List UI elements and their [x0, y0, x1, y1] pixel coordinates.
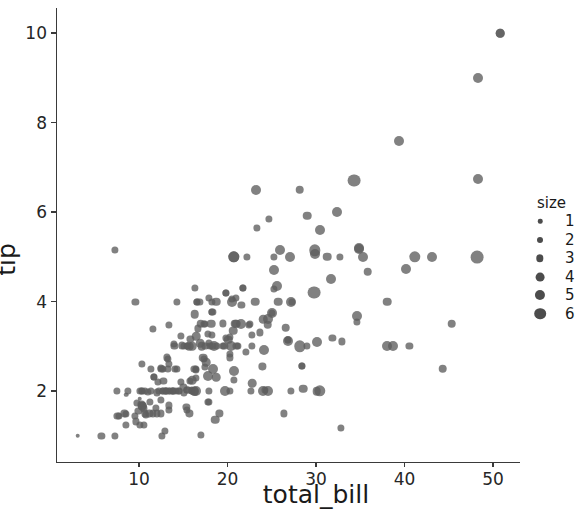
scatter-point — [244, 253, 251, 260]
scatter-point — [401, 264, 411, 274]
x-tick-label: 10 — [128, 469, 150, 489]
legend-marker-icon — [536, 272, 545, 281]
scatter-point — [248, 331, 255, 338]
legend-marker-icon — [538, 219, 543, 224]
scatter-point — [228, 251, 239, 262]
scatter-point — [337, 425, 344, 432]
scatter-point — [281, 410, 288, 417]
scatter-point — [269, 265, 279, 275]
scatter-point — [197, 432, 204, 439]
scatter-point — [212, 297, 221, 306]
scatter-point — [219, 320, 226, 327]
scatter-point — [227, 297, 237, 307]
legend-item[interactable]: 2 — [527, 231, 581, 250]
scatter-point — [229, 366, 239, 376]
scatter-point — [326, 274, 336, 284]
legend-item-label: 1 — [565, 212, 575, 230]
scatter-point — [285, 252, 295, 262]
scatter-point — [124, 392, 129, 397]
scatter-point — [329, 335, 336, 342]
scatter-point — [212, 373, 221, 382]
scatter-point — [274, 297, 283, 306]
scatter-plot-figure: 1020304050 246810 total_bill tip size 12… — [0, 0, 581, 510]
legend-item[interactable]: 1 — [527, 212, 581, 231]
scatter-point — [287, 387, 294, 394]
legend-item[interactable]: 6 — [527, 305, 581, 324]
scatter-point — [312, 337, 322, 347]
y-tick-label: 2 — [36, 381, 47, 401]
scatter-point — [113, 387, 120, 394]
scatter-point — [332, 207, 342, 217]
size-legend: size 123456 — [527, 194, 581, 323]
scatter-point — [190, 310, 199, 319]
scatter-point — [363, 267, 372, 276]
legend-marker-icon — [537, 237, 543, 243]
legend-item[interactable]: 5 — [527, 286, 581, 305]
scatter-point — [111, 432, 118, 439]
scatter-point — [296, 185, 305, 194]
scatter-point — [251, 185, 261, 195]
x-axis-label: total_bill — [263, 480, 369, 509]
scatter-point — [231, 320, 240, 329]
y-tick-mark — [51, 390, 56, 391]
scatter-point — [220, 386, 230, 396]
y-tick-label: 10 — [25, 23, 47, 43]
y-axis-label: tip — [0, 243, 21, 276]
x-tick-label: 50 — [482, 469, 504, 489]
scatter-point — [191, 284, 198, 291]
scatter-point — [248, 379, 257, 388]
scatter-point — [315, 225, 325, 235]
legend-title: size — [537, 194, 581, 212]
scatter-point — [157, 410, 164, 417]
scatter-point — [142, 411, 149, 418]
scatter-point — [166, 406, 173, 413]
scatter-point — [352, 311, 362, 321]
scatter-point — [275, 245, 285, 255]
scatter-point — [271, 253, 278, 260]
scatter-point — [205, 387, 212, 394]
scatter-point — [138, 361, 145, 368]
scatter-point — [178, 332, 185, 339]
legend-item-label: 6 — [565, 305, 575, 323]
scatter-point — [299, 362, 306, 369]
legend-item-label: 2 — [565, 231, 575, 249]
scatter-point — [239, 284, 246, 291]
scatter-point — [354, 244, 364, 254]
scatter-point — [192, 374, 199, 381]
scatter-point — [132, 298, 139, 305]
scatter-point — [259, 345, 269, 355]
x-tick-label: 20 — [217, 469, 239, 489]
scatter-point — [282, 324, 291, 333]
legend-item[interactable]: 4 — [527, 268, 581, 287]
scatter-point — [473, 174, 483, 184]
scatter-point — [470, 250, 483, 263]
x-tick-mark — [404, 462, 405, 467]
legend-entries: 123456 — [527, 212, 581, 323]
scatter-point — [336, 253, 343, 260]
scatter-point — [248, 343, 255, 350]
y-tick-mark — [51, 32, 56, 33]
scatter-point — [226, 341, 236, 351]
scatter-point — [115, 412, 122, 419]
scatter-point — [238, 301, 245, 308]
scatter-point — [473, 73, 483, 83]
y-tick-label: 4 — [36, 292, 47, 312]
scatter-point — [303, 211, 312, 220]
scatter-point — [348, 174, 361, 187]
legend-item[interactable]: 3 — [527, 249, 581, 268]
x-tick-mark — [315, 462, 316, 467]
x-tick-label: 40 — [394, 469, 416, 489]
scatter-point — [253, 224, 260, 231]
scatter-point — [199, 354, 208, 363]
scatter-point — [448, 320, 457, 329]
x-tick-mark — [227, 462, 228, 467]
scatter-point — [150, 325, 157, 332]
scatter-point — [171, 343, 178, 350]
scatter-point — [207, 320, 216, 329]
scatter-point — [394, 136, 404, 146]
scatter-point — [338, 338, 345, 345]
scatter-point — [299, 384, 308, 393]
scatter-point — [294, 341, 305, 352]
scatter-point — [266, 215, 273, 222]
legend-item-label: 4 — [565, 268, 575, 286]
